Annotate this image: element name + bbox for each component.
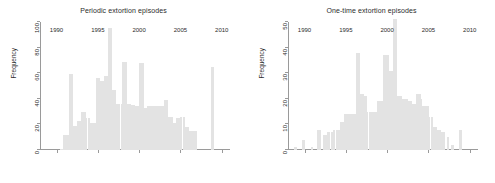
x-tick-right-2005 [428,150,429,153]
x-tick-label-left-2010: 2010 [215,27,228,33]
x-tick-right-2010 [470,150,471,153]
bars-left [40,22,230,150]
x-tick-label-right-2005: 2005 [422,27,435,33]
x-tick-right-1990 [305,150,306,153]
y-tick-label-left-80: 80 [34,49,40,56]
panel-title-left: Periodic extortion episodes [0,7,247,14]
histogram-bar [294,147,296,150]
y-tick-label-right-20: 20 [282,100,288,107]
histogram-bar [302,140,304,150]
x-tick-label-left-2000: 2000 [132,27,145,33]
y-tick-label-right-50: 50 [282,23,288,30]
y-tick-right-0 [285,149,288,150]
x-tick-left-1995 [98,150,99,153]
panel-onetime-extortion: One-time extortion episodes Frequency 01… [248,0,495,183]
y-axis-label-right: Frequency [259,43,266,83]
x-tick-label-left-1990: 1990 [50,27,63,33]
y-tick-left-80 [37,47,40,48]
y-tick-left-40 [37,98,40,99]
y-tick-label-left-20: 20 [34,125,40,132]
bars-right [288,22,478,150]
panel-title-right: One-time extortion episodes [248,7,495,14]
y-tick-right-40 [285,47,288,48]
y-tick-label-left-40: 40 [34,100,40,107]
histogram-bar [451,145,453,150]
y-tick-label-right-40: 40 [282,49,288,56]
x-tick-left-2005 [180,150,181,153]
x-tick-label-right-2000: 2000 [380,27,393,33]
x-tick-label-right-2010: 2010 [463,27,476,33]
histogram-bar [211,67,213,150]
histogram-figure: Periodic extortion episodes Frequency 02… [0,0,495,183]
histogram-bar [327,132,329,150]
x-tick-label-left-2005: 2005 [174,27,187,33]
y-tick-label-left-100: 100 [34,23,40,33]
y-tick-left-0 [37,149,40,150]
plot-area-left: 02040608010019901995200020052010 [40,22,230,150]
x-tick-right-1995 [346,150,347,153]
histogram-bar [459,130,461,150]
y-tick-label-left-0: 0 [34,151,40,154]
x-tick-label-left-1995: 1995 [91,27,104,33]
histogram-bar [195,131,197,150]
y-axis-label-left: Frequency [11,43,18,83]
x-tick-left-1990 [57,150,58,153]
x-tick-left-2010 [222,150,223,153]
histogram-bar [447,137,449,150]
y-tick-label-right-30: 30 [282,74,288,81]
y-tick-left-100 [37,21,40,22]
y-tick-label-left-60: 60 [34,74,40,81]
panel-periodic-extortion: Periodic extortion episodes Frequency 02… [0,0,247,183]
plot-area-right: 0102030405019901995200020052010 [288,22,478,150]
x-tick-right-2000 [387,150,388,153]
y-tick-label-right-0: 0 [282,151,288,154]
y-tick-right-20 [285,98,288,99]
histogram-bar [443,132,445,150]
x-tick-label-right-1995: 1995 [339,27,352,33]
y-tick-label-right-10: 10 [282,125,288,132]
x-tick-label-right-1990: 1990 [298,27,311,33]
x-tick-left-2000 [139,150,140,153]
histogram-bar [311,147,313,150]
histogram-bar [319,130,321,150]
